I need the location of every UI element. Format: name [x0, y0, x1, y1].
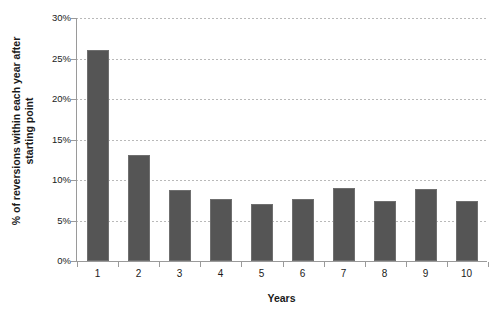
x-tick-mark — [200, 262, 201, 267]
bar-slot — [77, 18, 118, 261]
bar — [292, 199, 314, 261]
x-tick-mark — [488, 262, 489, 267]
bar — [87, 50, 109, 261]
x-tick-mark — [324, 262, 325, 267]
bar-slot — [118, 18, 159, 261]
x-tick-label: 10 — [446, 268, 487, 280]
x-tick-mark — [283, 262, 284, 267]
y-axis-title-line-1: % of reversions within each year after — [10, 37, 23, 226]
x-axis-title: Years — [76, 292, 487, 304]
bar — [415, 189, 437, 261]
y-tick-label: 20% — [43, 94, 71, 104]
bar-slot — [405, 18, 446, 261]
bar-slot — [159, 18, 200, 261]
y-tick-label: 30% — [43, 13, 71, 23]
y-tick-label: 10% — [43, 175, 71, 185]
x-tick-label: 8 — [364, 268, 405, 280]
x-tick-mark — [447, 262, 448, 267]
x-tick-label: 4 — [200, 268, 241, 280]
x-tick-label: 5 — [241, 268, 282, 280]
x-tick-mark — [159, 262, 160, 267]
x-axis-tick-labels: 12345678910 — [77, 268, 487, 280]
y-axis-tick-labels: 0%5%10%15%20%25%30% — [40, 18, 71, 262]
bar — [210, 199, 232, 261]
x-tick-label: 3 — [159, 268, 200, 280]
bar-slot — [323, 18, 364, 261]
y-axis-title-line-2: starting point — [23, 37, 36, 226]
bars-layer — [77, 18, 487, 261]
x-axis-ticks — [77, 262, 487, 267]
bar-slot — [200, 18, 241, 261]
y-tick-label: 0% — [43, 256, 71, 266]
x-tick-mark — [241, 262, 242, 267]
y-tick-label: 25% — [43, 54, 71, 64]
plot-area — [76, 18, 487, 262]
bar — [128, 155, 150, 261]
x-tick-mark — [365, 262, 366, 267]
y-tick-label: 15% — [43, 135, 71, 145]
bar — [333, 188, 355, 261]
bar-slot — [364, 18, 405, 261]
bar — [251, 204, 273, 261]
x-tick-label: 9 — [405, 268, 446, 280]
bar-slot — [282, 18, 323, 261]
x-tick-label: 7 — [323, 268, 364, 280]
x-tick-mark — [77, 262, 78, 267]
bar — [169, 190, 191, 261]
x-tick-label: 6 — [282, 268, 323, 280]
y-tick-label: 5% — [43, 216, 71, 226]
bar-chart: % of reversions within each year after s… — [0, 0, 501, 318]
x-tick-label: 1 — [77, 268, 118, 280]
x-tick-label: 2 — [118, 268, 159, 280]
bar — [374, 201, 396, 261]
bar-slot — [446, 18, 487, 261]
bar-slot — [241, 18, 282, 261]
x-tick-mark — [406, 262, 407, 267]
x-tick-mark — [118, 262, 119, 267]
bar — [456, 201, 478, 261]
